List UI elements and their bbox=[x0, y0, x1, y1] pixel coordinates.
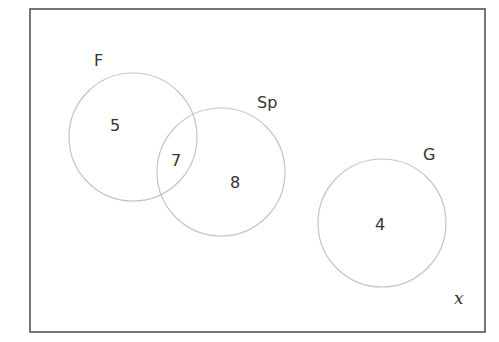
universal-set-label: x bbox=[454, 288, 464, 308]
set-g-label: G bbox=[423, 145, 435, 164]
region-f-only-count: 5 bbox=[110, 116, 120, 135]
set-sp-label: Sp bbox=[257, 93, 277, 112]
venn-diagram: F Sp G 5 7 8 4 x bbox=[0, 0, 499, 342]
region-f-and-sp-count: 7 bbox=[171, 151, 181, 170]
region-g-only-count: 4 bbox=[375, 215, 385, 234]
region-sp-only-count: 8 bbox=[230, 173, 240, 192]
set-f-label: F bbox=[94, 51, 103, 70]
